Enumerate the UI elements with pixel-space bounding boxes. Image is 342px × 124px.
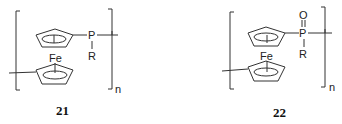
- left-chain-bond: [9, 72, 36, 73]
- r-substituent-22: R: [299, 48, 307, 60]
- phosphorus-atom-21: P: [88, 29, 95, 41]
- iron-atom-22: Fe: [260, 50, 273, 62]
- iron-atom-21: Fe: [49, 52, 62, 64]
- lower-ring-aromatic-circle: [254, 68, 278, 76]
- structure-22: [222, 7, 332, 89]
- repeat-subscript-21: n: [115, 83, 121, 95]
- chemical-structures-figure: P R Fe n 21 O P R Fe n 22: [0, 0, 342, 124]
- structure-21: [9, 9, 118, 90]
- right-bracket: [108, 9, 112, 89]
- upper-ring-aromatic-circle: [254, 33, 278, 41]
- repeat-subscript-22: n: [329, 81, 335, 93]
- left-chain-bond: [222, 69, 248, 71]
- compound-label-22: 22: [273, 105, 286, 120]
- oxygen-atom-22: O: [299, 9, 308, 21]
- r-substituent-21: R: [88, 50, 96, 62]
- left-bracket: [16, 11, 20, 90]
- right-bracket: [321, 7, 325, 87]
- compound-label-21: 21: [56, 103, 69, 118]
- phosphorus-atom-22: P: [299, 27, 306, 39]
- left-bracket: [230, 12, 234, 89]
